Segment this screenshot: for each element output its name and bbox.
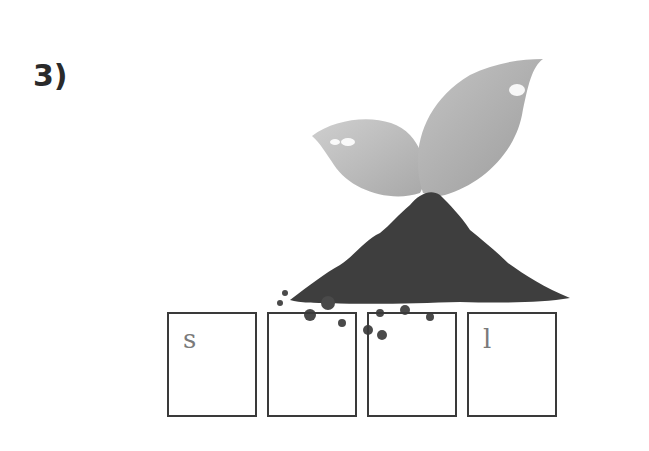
letter-box-3[interactable]	[367, 312, 457, 417]
letter-box-4[interactable]: l	[467, 312, 557, 417]
letter-box-1[interactable]: s	[167, 312, 257, 417]
letter-box-4-text: l	[483, 324, 491, 354]
question-number: 3)	[33, 58, 68, 93]
letter-box-1-text: s	[183, 324, 196, 354]
word-letter-boxes: s l	[167, 312, 562, 420]
letter-box-2[interactable]	[267, 312, 357, 417]
left-leaf-icon	[312, 119, 425, 196]
seedling-soil-illustration	[270, 45, 580, 345]
right-leaf-icon	[418, 59, 543, 196]
